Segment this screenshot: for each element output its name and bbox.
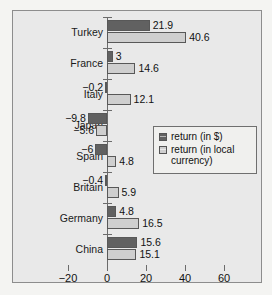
x-axis-tick-label: 0: [87, 272, 127, 284]
category-label: Turkey: [25, 17, 103, 48]
category-tick: [103, 203, 112, 204]
x-axis-tick-label: 60: [204, 272, 244, 284]
bar-value-label: 4.8: [119, 206, 134, 217]
bar-value-label: 12.1: [134, 94, 154, 105]
x-axis-tick: [224, 265, 225, 271]
bar-dollar: [95, 144, 107, 155]
bar-value-label: −6: [81, 144, 93, 155]
bar-value-label: 15.1: [139, 249, 159, 260]
bar-dollar: [88, 113, 107, 124]
category-label: France: [25, 48, 103, 79]
bar-row: France314.6: [13, 48, 263, 79]
category-tick: [103, 234, 112, 235]
bar-local: [96, 125, 107, 136]
bar-dollar: [105, 82, 107, 93]
x-axis-tick-label: −20: [48, 272, 88, 284]
bar-value-label: 15.6: [140, 237, 160, 248]
bar-local: [107, 94, 131, 105]
category-tick: [103, 17, 112, 18]
bar-value-label: 14.6: [138, 63, 158, 74]
x-axis-tick-label: 40: [165, 272, 205, 284]
legend-label-local: return (in localcurrency): [171, 144, 234, 167]
legend-label-local-line2: currency): [171, 155, 213, 166]
legend-item-dollar: return (in $): [159, 131, 251, 143]
bar-dollar: [105, 175, 107, 186]
category-label: Germany: [25, 203, 103, 234]
category-tick: [103, 110, 112, 111]
bar-value-label: 3: [116, 51, 122, 62]
bar-value-label: 5.9: [122, 187, 137, 198]
x-axis-tick: [146, 265, 147, 271]
x-axis-tick: [185, 265, 186, 271]
category-tick: [103, 141, 112, 142]
legend-label-local-line1: return (in local: [171, 144, 234, 155]
legend-swatch-dollar-icon: [159, 133, 167, 141]
bar-value-label: 16.5: [142, 218, 162, 229]
legend-swatch-local-icon: [159, 146, 167, 154]
bar-value-label: −5.6: [73, 125, 94, 136]
bar-dollar: [107, 206, 116, 217]
bar-value-label: 40.6: [189, 32, 209, 43]
bar-row: Italy−0.212.1: [13, 79, 263, 110]
bar-value-label: 21.9: [153, 20, 173, 31]
category-label: China: [25, 234, 103, 265]
bar-dollar: [107, 51, 113, 62]
category-tick: [103, 172, 112, 173]
chart-screenshot: Turkey21.940.6France314.6Italy−0.212.1Ja…: [0, 0, 272, 295]
bar-local: [107, 63, 135, 74]
category-tick: [103, 79, 112, 80]
legend-label-dollar: return (in $): [171, 131, 223, 143]
chart-frame: Turkey21.940.6France314.6Italy−0.212.1Ja…: [12, 10, 262, 283]
bar-row: Turkey21.940.6: [13, 17, 263, 48]
bar-local: [107, 187, 119, 198]
x-axis-tick-label: 20: [126, 272, 166, 284]
bar-value-label: −0.4: [82, 175, 103, 186]
bar-row: Germany4.816.5: [13, 203, 263, 234]
legend-item-local: return (in localcurrency): [159, 144, 251, 167]
bar-dollar: [107, 20, 150, 31]
x-axis-tick: [107, 265, 108, 271]
bar-local: [107, 32, 186, 43]
bar-local: [107, 249, 136, 260]
bar-row: China15.615.1: [13, 234, 263, 265]
category-tick: [103, 48, 112, 49]
bar-local: [107, 218, 139, 229]
plot-area: Turkey21.940.6France314.6Italy−0.212.1Ja…: [13, 11, 263, 284]
bar-dollar: [107, 237, 137, 248]
bar-row: Britain−0.45.9: [13, 172, 263, 203]
x-axis-tick: [68, 265, 69, 271]
bar-local: [107, 156, 116, 167]
bar-value-label: 4.8: [119, 156, 134, 167]
chart-legend: return (in $) return (in localcurrency): [153, 126, 257, 174]
bar-value-label: −9.8: [65, 113, 86, 124]
bar-value-label: −0.2: [82, 82, 103, 93]
